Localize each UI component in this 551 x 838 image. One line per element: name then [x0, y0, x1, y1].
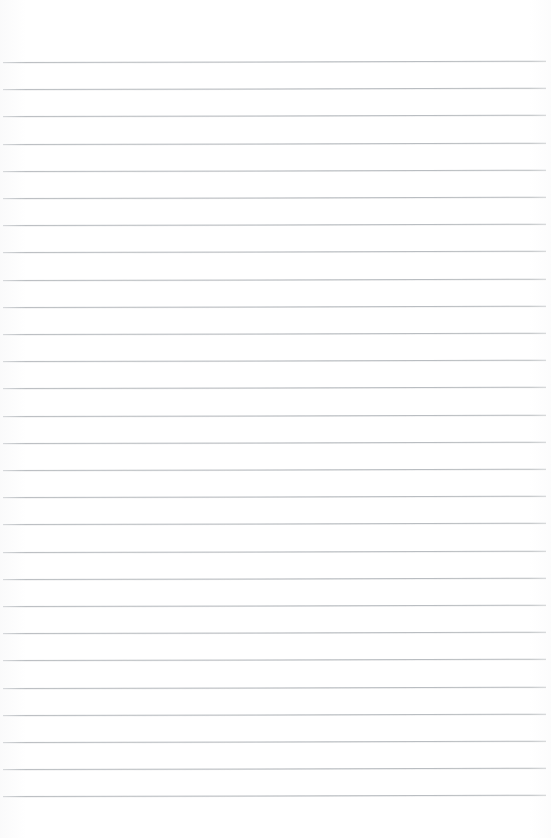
page-content-area [3, 62, 546, 810]
document-page [0, 0, 551, 838]
